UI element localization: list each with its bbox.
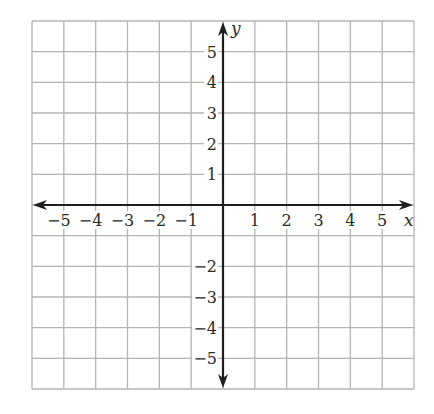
x-tick-label: −1 — [174, 211, 198, 230]
y-tick-label: 1 — [207, 165, 217, 184]
x-tick-label: 2 — [282, 211, 292, 230]
y-tick-label: −4 — [193, 319, 217, 338]
y-axis-label: y — [230, 18, 241, 38]
y-tick-label: −2 — [193, 257, 217, 276]
x-tick-label: −3 — [111, 211, 135, 230]
x-tick-label: 1 — [250, 211, 260, 230]
x-axis-label: x — [404, 210, 414, 230]
y-tick-label: 5 — [207, 43, 217, 62]
y-tick-label: 2 — [207, 135, 217, 154]
axes — [33, 22, 413, 388]
y-tick-label: −3 — [193, 288, 217, 307]
x-tick-label: 4 — [345, 211, 355, 230]
x-tick-label: 3 — [313, 211, 323, 230]
x-tick-label: −4 — [79, 211, 103, 230]
y-tick-label: 3 — [207, 104, 217, 123]
x-tick-label: −2 — [143, 211, 167, 230]
y-tick-label: −5 — [193, 349, 217, 368]
x-tick-label: −5 — [47, 211, 71, 230]
coordinate-plane: −5−4−3−2−112345 54321−2−3−4−5 xy — [0, 0, 434, 414]
x-tick-labels: −5−4−3−2−112345 — [46, 211, 412, 230]
y-tick-label: 4 — [207, 73, 217, 92]
x-tick-label: 5 — [377, 211, 387, 230]
